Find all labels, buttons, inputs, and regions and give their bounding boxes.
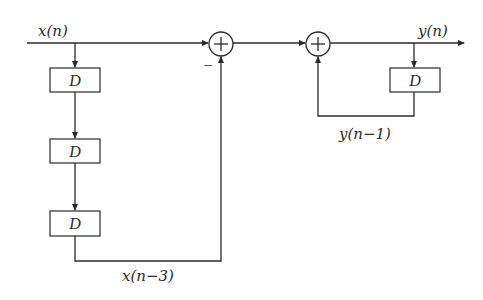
feedback-label: y(n−1) — [338, 125, 391, 143]
input-label: x(n) — [38, 22, 68, 40]
forward-tap-label: x(n−3) — [122, 267, 174, 285]
output-label: y(n) — [417, 22, 448, 40]
delay-label: D — [68, 143, 81, 160]
delay-block-3: D — [50, 211, 100, 236]
minus-sign: − — [203, 57, 212, 74]
block-diagram: D D D D − x(n) y(n) y(n−1) x(n−3) — [0, 0, 483, 300]
summing-junction-1 — [209, 32, 233, 56]
delay-block-2: D — [50, 139, 100, 163]
delay-label: D — [408, 72, 421, 89]
delay-block-1: D — [50, 68, 100, 92]
feedback-delay-block: D — [390, 68, 440, 92]
summing-junction-2 — [306, 32, 330, 56]
delay-label: D — [68, 72, 81, 89]
delay-label: D — [68, 215, 81, 232]
